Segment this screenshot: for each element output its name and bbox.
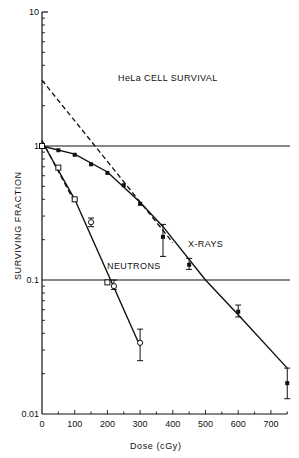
neutron-circle-marker [111,284,116,289]
fit-curve [42,80,173,242]
y-tick-label: 10 [29,7,39,17]
neutron-circle-marker [138,340,143,345]
x-tick-label: 600 [231,419,246,429]
x-axis-title: Dose (cGy) [130,441,182,451]
x-tick-label: 500 [198,419,213,429]
reference-lines [42,146,290,280]
xray-marker [236,310,240,314]
neutron-square-marker [105,280,110,285]
xray-marker [56,148,60,152]
xray-marker [285,381,289,385]
neutron-circle-marker [88,220,93,225]
xray-marker [89,162,93,166]
survival-chart: 0.010.11100100200300400500600700 HeLa CE… [0,0,299,458]
x-tick-label: 400 [165,419,180,429]
x-tick-label: 100 [67,419,82,429]
x-tick-label: 200 [100,419,115,429]
y-axis-title: SURVIVING FRACTION [13,171,23,280]
neutrons-label: NEUTRONS [107,261,161,271]
tick-labels: 0.010.11100100200300400500600700 [21,7,278,429]
y-tick-label: 0.01 [21,409,39,419]
x-tick-label: 700 [263,419,278,429]
neutron-square-marker [72,197,77,202]
y-tick-label: 1 [34,141,39,151]
neutron-square-marker [40,144,45,149]
xray-marker [187,263,191,267]
data-points [40,144,291,399]
xray-marker [122,183,126,187]
xrays-label: X-RAYS [188,239,223,249]
xray-marker [161,235,165,239]
fit-curve [42,146,287,368]
y-tick-label: 0.1 [26,275,39,285]
chart-title: HeLa CELL SURVIVAL [118,73,218,83]
neutron-square-marker [56,165,61,170]
x-tick-label: 0 [39,419,44,429]
xray-marker [73,153,77,157]
fit-curve [42,142,140,347]
xray-marker [105,171,109,175]
x-tick-label: 300 [133,419,148,429]
xray-marker [138,202,142,206]
